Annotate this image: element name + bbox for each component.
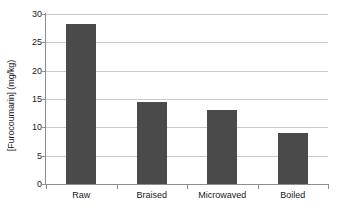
y-axis-tick-label: 10: [18, 123, 42, 132]
x-axis-separator-tick: [46, 185, 47, 189]
x-axis-category-labels: RawBraisedMicrowavedBoiled: [46, 190, 328, 204]
y-axis-tick-label: 15: [18, 95, 42, 104]
x-axis-separator-tick: [328, 185, 329, 189]
gridline: [46, 14, 328, 15]
x-axis-separator-tick: [117, 185, 118, 189]
plot-area: [46, 14, 328, 184]
x-axis-separator-tick: [258, 185, 259, 189]
y-axis-tick-label: 25: [18, 38, 42, 47]
bar: [137, 102, 167, 184]
bar: [66, 24, 96, 184]
bar-chart: [Furocoumarin] (mg/kg) 051015202530 RawB…: [0, 0, 344, 211]
y-axis-tick-mark: [41, 71, 46, 72]
y-axis-tick-labels: 051015202530: [18, 0, 42, 211]
y-axis-tick-label: 5: [18, 151, 42, 160]
y-axis-tick-label: 20: [18, 66, 42, 75]
y-axis-tick-label: 30: [18, 10, 42, 19]
x-axis-category-label: Raw: [46, 190, 117, 201]
x-axis-category-label: Microwaved: [187, 190, 258, 201]
y-axis-tick-label: 0: [18, 180, 42, 189]
y-axis-tick-mark: [41, 156, 46, 157]
y-axis-tick-mark: [41, 99, 46, 100]
y-axis-tick-mark: [41, 127, 46, 128]
x-axis-category-label: Braised: [117, 190, 188, 201]
bar: [278, 133, 308, 184]
y-axis-tick-mark: [41, 42, 46, 43]
bar: [207, 110, 237, 184]
x-axis-separator-tick: [187, 185, 188, 189]
x-axis-category-label: Boiled: [258, 190, 329, 201]
y-axis-tick-mark: [41, 14, 46, 15]
